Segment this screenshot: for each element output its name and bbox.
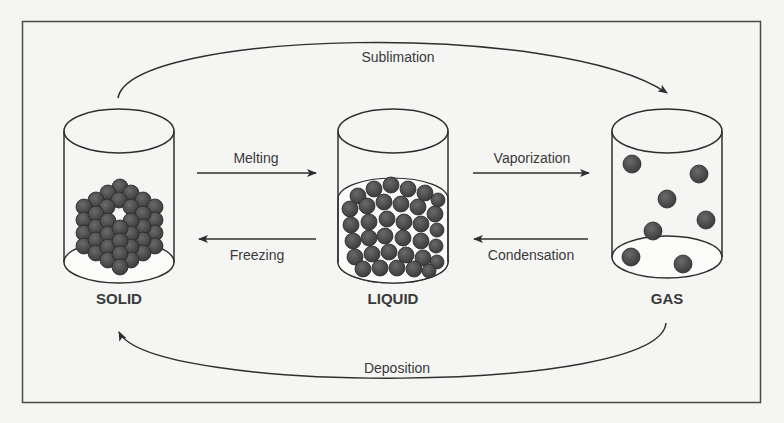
solid-container: SOLID (64, 109, 174, 307)
melting-label: Melting (233, 150, 278, 166)
gas-container: GAS (612, 109, 722, 307)
condensation-arrow: Condensation (474, 239, 588, 263)
solid-label: SOLID (96, 290, 142, 307)
melting-arrow: Melting (197, 150, 316, 173)
sublimation-label: Sublimation (361, 49, 434, 65)
freezing-arrow: Freezing (199, 239, 316, 263)
deposition-label: Deposition (364, 360, 430, 376)
liquid-container: LIQUID (338, 109, 448, 307)
liquid-label: LIQUID (368, 290, 419, 307)
deposition-arrow: Deposition (119, 323, 666, 378)
vaporization-arrow: Vaporization (473, 150, 589, 173)
phase-diagram: Sublimation Deposition Melting Freezing … (0, 0, 784, 423)
condensation-label: Condensation (488, 247, 574, 263)
freezing-label: Freezing (230, 247, 284, 263)
gas-label: GAS (651, 290, 684, 307)
vaporization-label: Vaporization (494, 150, 571, 166)
sublimation-arrow: Sublimation (118, 42, 667, 98)
